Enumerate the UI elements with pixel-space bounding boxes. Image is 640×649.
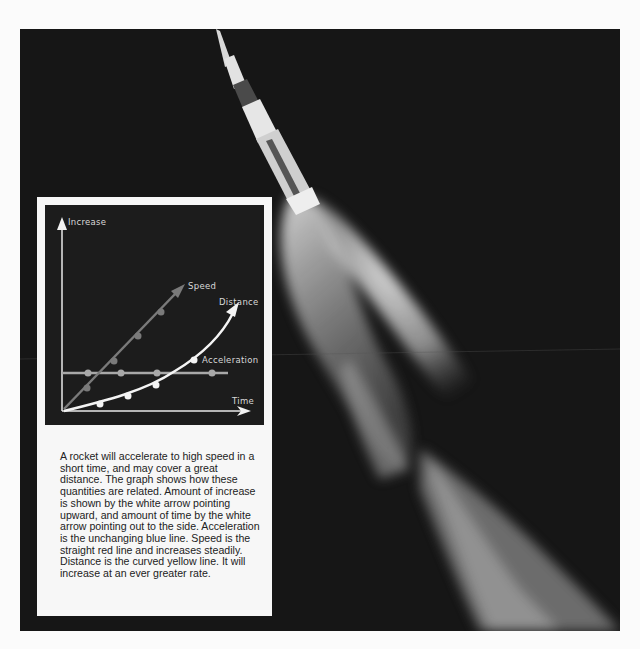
y-axis-arrow-icon (57, 217, 67, 230)
x-axis-label: Time (232, 396, 254, 406)
caption-text: A rocket will accelerate to high speed i… (60, 451, 260, 580)
speed-label: Speed (188, 281, 216, 291)
y-axis-label: Increase (68, 217, 106, 227)
distance-points (97, 357, 198, 408)
distance-label: Distance (219, 297, 259, 307)
motion-graph-svg (45, 205, 264, 425)
speed-points (84, 309, 165, 392)
explanation-panel: Increase Speed Distance Acceleration Tim… (37, 197, 272, 616)
rocket-photo: Increase Speed Distance Acceleration Tim… (20, 29, 620, 631)
rocket-icon (216, 29, 320, 215)
acceleration-label: Acceleration (202, 355, 258, 365)
motion-graph: Increase Speed Distance Acceleration Tim… (45, 205, 264, 425)
